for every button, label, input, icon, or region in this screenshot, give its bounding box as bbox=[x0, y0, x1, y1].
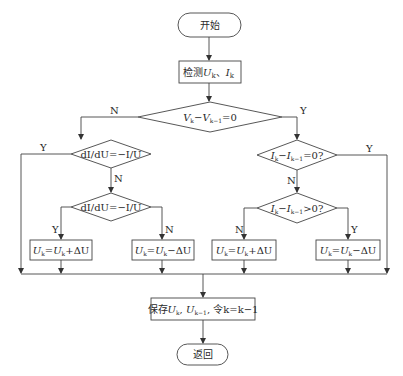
measure-label: 检测Uk、Ik bbox=[183, 66, 235, 80]
left-decision-2-label: dI/dU=−I/U bbox=[80, 202, 141, 213]
edge-label-main-n: N bbox=[110, 105, 119, 116]
flowchart: 开始 检测Uk、Ik Vk−Vk−1=0 dI/dU=−I/U dI/dU=−I… bbox=[0, 0, 403, 376]
edge-label-right1-n: N bbox=[287, 175, 296, 186]
edge-label-left2-y: Y bbox=[51, 224, 59, 235]
edge-label-right2-y: Y bbox=[350, 224, 358, 235]
edge-label-right2-n: N bbox=[235, 224, 244, 235]
edge-label-main-y: Y bbox=[299, 105, 307, 116]
edge-label-left1-y: Y bbox=[39, 142, 47, 153]
end-label: 返回 bbox=[193, 349, 213, 360]
start-label: 开始 bbox=[200, 19, 220, 31]
edge-label-left2-n: N bbox=[165, 224, 174, 235]
edge-label-right1-y: Y bbox=[365, 143, 373, 154]
edge-label-left1-n: N bbox=[114, 173, 123, 184]
left-decision-1-label: dI/dU=−I/U bbox=[80, 149, 141, 160]
